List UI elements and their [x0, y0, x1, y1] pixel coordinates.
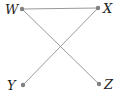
- label-z: Z: [103, 77, 114, 92]
- label-w: W: [5, 2, 20, 17]
- edge-x-y: [23, 8, 98, 85]
- graph-diagram: W X Y Z: [0, 0, 123, 96]
- node-z: [97, 82, 101, 86]
- label-y: Y: [7, 78, 17, 93]
- label-x: X: [102, 1, 113, 16]
- node-y: [21, 83, 25, 87]
- edge-w-x: [22, 8, 98, 9]
- node-w: [20, 7, 24, 11]
- edges: [22, 8, 99, 85]
- node-x: [96, 6, 100, 10]
